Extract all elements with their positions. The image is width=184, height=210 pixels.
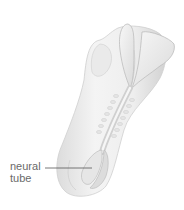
neural-tube-label: neural tube <box>10 160 41 184</box>
neural-tube-label-line2: tube <box>10 172 41 184</box>
neural-tube-label-line1: neural <box>10 160 41 172</box>
